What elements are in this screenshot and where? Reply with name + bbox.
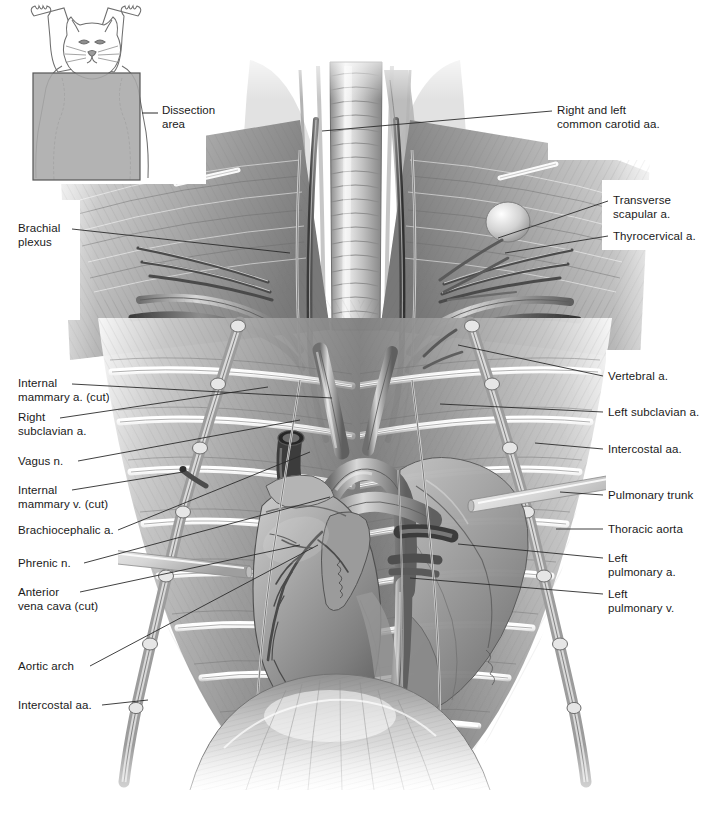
- label-left-pulmonary-a: Left pulmonary a.: [608, 552, 676, 579]
- label-thoracic-aorta: Thoracic aorta: [608, 523, 683, 537]
- dissection-area-box: [33, 73, 140, 180]
- humeral-head: [486, 202, 530, 242]
- label-anterior-vena-cava-cut: Anterior vena cava (cut): [18, 586, 98, 613]
- label-thyrocervical-a: Thyrocervical a.: [613, 230, 696, 244]
- label-vagus-n: Vagus n.: [18, 455, 63, 469]
- label-transverse-scapular-a: Transverse scapular a.: [613, 194, 671, 221]
- label-vertebral-a: Vertebral a.: [608, 370, 668, 384]
- left-pulmonary-artery: [400, 531, 452, 536]
- label-common-carotid-aa: Right and left common carotid aa.: [557, 104, 660, 131]
- label-left-pulmonary-v: Left pulmonary v.: [608, 588, 674, 615]
- label-internal-mammary-v-cut: Internal mammary v. (cut): [18, 484, 108, 511]
- label-left-subclavian-a: Left subclavian a.: [608, 406, 699, 420]
- dissection-area-caption: Dissection area: [162, 104, 215, 131]
- label-pulmonary-trunk: Pulmonary trunk: [608, 489, 693, 503]
- label-phrenic-n: Phrenic n.: [18, 557, 71, 571]
- label-aortic-arch: Aortic arch: [18, 660, 74, 674]
- label-brachiocephalic-a: Brachiocephalic a.: [18, 524, 114, 538]
- label-intercostal-aa-right: Intercostal aa.: [608, 443, 682, 457]
- label-intercostal-aa-left: Intercostal aa.: [18, 699, 92, 713]
- label-right-subclavian-a: Right subclavian a.: [18, 411, 86, 438]
- trachea: [330, 62, 382, 330]
- label-internal-mammary-a-cut: Internal mammary a. (cut): [18, 377, 110, 404]
- label-brachial-plexus: Brachial plexus: [18, 222, 60, 249]
- orientation-inset: [6, 6, 206, 184]
